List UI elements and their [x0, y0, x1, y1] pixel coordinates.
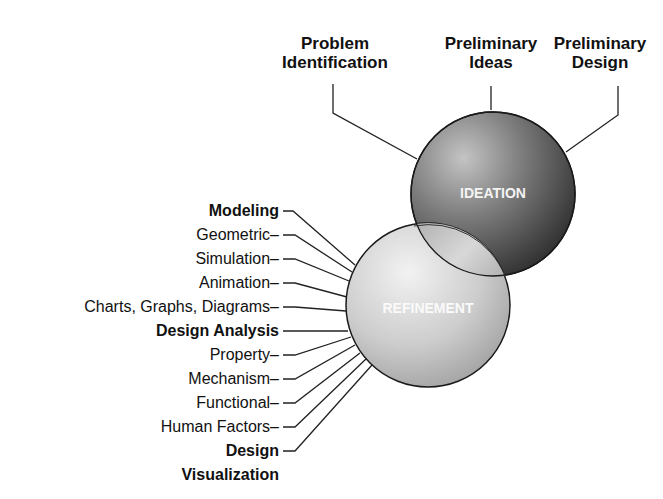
- label-charts-graphs-diagrams: Charts, Graphs, Diagrams–: [84, 298, 279, 316]
- diagram-canvas: [0, 0, 663, 499]
- label-simulation: Simulation–: [195, 250, 279, 268]
- label-modeling: Modeling: [209, 202, 279, 220]
- label-property: Property–: [210, 346, 279, 364]
- label-functional: Functional–: [196, 394, 279, 412]
- label-geometric: Geometric–: [196, 226, 279, 244]
- connector-problem-identification: [333, 84, 417, 159]
- connector-preliminary-design: [566, 86, 618, 152]
- refinement-label: REFINEMENT: [368, 300, 488, 316]
- label-animation: Animation–: [199, 274, 279, 292]
- label-design-analysis: Design Analysis: [156, 322, 279, 340]
- label-preliminary-ideas: Preliminary Ideas: [425, 34, 557, 72]
- ideation-label: IDEATION: [443, 185, 543, 201]
- label-design: Design: [226, 442, 279, 460]
- label-problem-identification: Problem Identification: [265, 34, 405, 72]
- label-mechanism: Mechanism–: [188, 370, 279, 388]
- label-preliminary-design: Preliminary Design: [544, 34, 656, 72]
- label-visualization: Visualization: [181, 466, 279, 484]
- label-human-factors: Human Factors–: [161, 418, 279, 436]
